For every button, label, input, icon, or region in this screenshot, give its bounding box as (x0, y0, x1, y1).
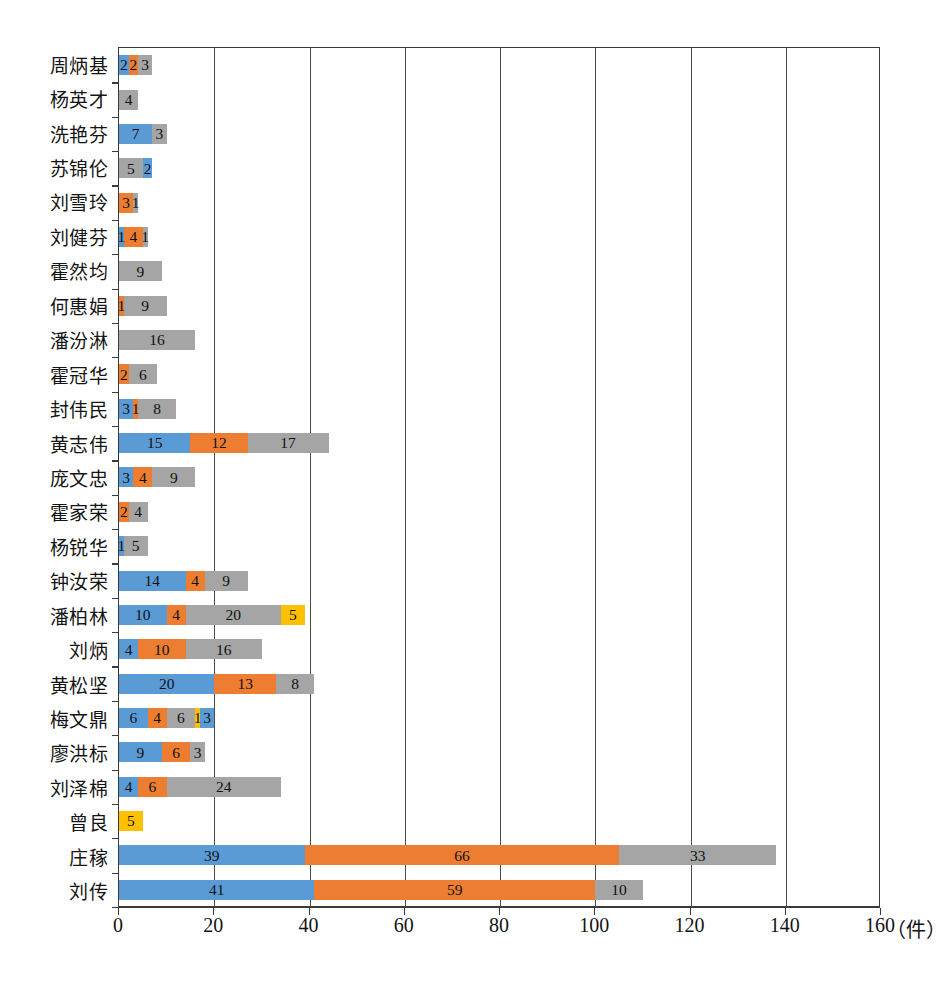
bar-segment-gray[interactable]: 3 (190, 742, 204, 762)
stacked-bar[interactable]: 73 (119, 124, 167, 144)
bar-segment-orange[interactable]: 4 (148, 708, 167, 728)
stacked-bar[interactable]: 5 (119, 811, 143, 831)
stacked-bar[interactable]: 64613 (119, 708, 214, 728)
bar-row: 19 (119, 289, 879, 323)
bar-segment-gray[interactable]: 33 (619, 845, 776, 865)
bar-segment-value: 6 (177, 710, 185, 726)
bar-segment-gray[interactable]: 9 (124, 296, 167, 316)
stacked-bar[interactable]: 19 (119, 296, 167, 316)
stacked-bar[interactable]: 1449 (119, 571, 248, 591)
bar-segment-blue[interactable]: 2 (143, 158, 153, 178)
stacked-bar[interactable]: 52 (119, 158, 152, 178)
bar-segment-orange[interactable]: 4 (167, 605, 186, 625)
y-axis-tick (112, 701, 119, 702)
bar-segment-yellow[interactable]: 5 (281, 605, 305, 625)
bar-segment-gray[interactable]: 10 (595, 880, 643, 900)
bar-segment-blue[interactable]: 2 (119, 55, 129, 75)
stacked-bar[interactable]: 396633 (119, 845, 776, 865)
bar-segment-gray[interactable]: 6 (167, 708, 196, 728)
bar-segment-orange[interactable]: 12 (190, 433, 247, 453)
bar-segment-orange[interactable]: 6 (138, 777, 167, 797)
stacked-bar[interactable]: 15 (119, 536, 148, 556)
bar-segment-orange[interactable]: 2 (119, 364, 129, 384)
bar-segment-gray[interactable]: 3 (138, 55, 152, 75)
bar-row: 16 (119, 323, 879, 357)
bar-segment-orange[interactable]: 1 (119, 296, 124, 316)
bar-segment-blue[interactable]: 20 (119, 674, 214, 694)
bar-segment-gray[interactable]: 9 (152, 467, 195, 487)
bar-segment-blue[interactable]: 15 (119, 433, 190, 453)
bar-segment-blue[interactable]: 41 (119, 880, 314, 900)
stacked-bar[interactable]: 4624 (119, 777, 281, 797)
bar-segment-gray[interactable]: 8 (276, 674, 314, 694)
bar-row: 15 (119, 529, 879, 563)
bar-segment-blue[interactable]: 6 (119, 708, 148, 728)
stacked-bar[interactable]: 41016 (119, 639, 262, 659)
bar-segment-gray[interactable]: 4 (119, 90, 138, 110)
bar-segment-yellow[interactable]: 1 (195, 708, 200, 728)
stacked-bar[interactable]: 141 (119, 227, 148, 247)
bar-segment-gray[interactable]: 1 (133, 193, 138, 213)
bar-segment-orange[interactable]: 13 (214, 674, 276, 694)
stacked-bar[interactable]: 31 (119, 193, 138, 213)
bar-segment-gray[interactable]: 16 (186, 639, 262, 659)
y-axis-label: 杨英才 (0, 81, 114, 115)
bar-segment-orange[interactable]: 2 (119, 502, 129, 522)
bar-segment-blue[interactable]: 1 (119, 536, 124, 556)
stacked-bar[interactable]: 318 (119, 399, 176, 419)
y-axis-label: 庞文忠 (0, 460, 114, 494)
stacked-bar[interactable]: 223 (119, 55, 152, 75)
y-axis-tick (112, 254, 119, 255)
stacked-bar[interactable]: 104205 (119, 605, 305, 625)
bar-segment-gray[interactable]: 6 (129, 364, 158, 384)
stacked-bar[interactable]: 4 (119, 90, 138, 110)
bar-segment-gray[interactable]: 1 (143, 227, 148, 247)
stacked-bar[interactable]: 20138 (119, 674, 314, 694)
bar-segment-gray[interactable]: 17 (248, 433, 329, 453)
bar-segment-orange[interactable]: 1 (133, 399, 138, 419)
bar-segment-orange[interactable]: 2 (129, 55, 139, 75)
bar-segment-orange[interactable]: 4 (124, 227, 143, 247)
bar-segment-gray[interactable]: 20 (186, 605, 281, 625)
bar-segment-orange[interactable]: 59 (314, 880, 595, 900)
bar-segment-blue[interactable]: 4 (119, 639, 138, 659)
bar-segment-blue[interactable]: 7 (119, 124, 152, 144)
bar-segment-yellow[interactable]: 5 (119, 811, 143, 831)
bar-segment-orange[interactable]: 6 (162, 742, 191, 762)
bar-segment-orange[interactable]: 10 (138, 639, 186, 659)
bar-segment-blue[interactable]: 4 (119, 777, 138, 797)
bar-segment-orange[interactable]: 66 (305, 845, 619, 865)
bar-segment-blue[interactable]: 9 (119, 742, 162, 762)
bar-segment-value: 15 (147, 435, 163, 451)
bar-segment-gray[interactable]: 9 (119, 261, 162, 281)
bar-segment-gray[interactable]: 5 (119, 158, 143, 178)
bar-segment-value: 9 (137, 745, 145, 761)
stacked-bar[interactable]: 151217 (119, 433, 329, 453)
bar-segment-gray[interactable]: 8 (138, 399, 176, 419)
stacked-bar[interactable]: 16 (119, 330, 195, 350)
stacked-bar[interactable]: 9 (119, 261, 162, 281)
bar-segment-blue[interactable]: 1 (119, 227, 124, 247)
stacked-bar[interactable]: 26 (119, 364, 157, 384)
bar-segment-gray[interactable]: 24 (167, 777, 281, 797)
stacked-bar[interactable]: 24 (119, 502, 148, 522)
bar-segment-gray[interactable]: 9 (205, 571, 248, 591)
bar-segment-blue[interactable]: 3 (200, 708, 214, 728)
bar-segment-gray[interactable]: 5 (124, 536, 148, 556)
bar-segment-blue[interactable]: 10 (119, 605, 167, 625)
y-axis-tick (112, 804, 119, 805)
bar-segment-value: 9 (222, 573, 230, 589)
bar-row: 5 (119, 804, 879, 838)
bar-segment-gray[interactable]: 16 (119, 330, 195, 350)
stacked-bar[interactable]: 349 (119, 467, 195, 487)
stacked-bar[interactable]: 415910 (119, 880, 643, 900)
bar-row: 396633 (119, 838, 879, 872)
bar-segment-blue[interactable]: 3 (119, 467, 133, 487)
bar-segment-gray[interactable]: 4 (129, 502, 148, 522)
bar-segment-blue[interactable]: 39 (119, 845, 305, 865)
bar-segment-blue[interactable]: 14 (119, 571, 186, 591)
bar-segment-orange[interactable]: 4 (133, 467, 152, 487)
bar-segment-gray[interactable]: 3 (152, 124, 166, 144)
stacked-bar[interactable]: 963 (119, 742, 205, 762)
bar-segment-orange[interactable]: 4 (186, 571, 205, 591)
